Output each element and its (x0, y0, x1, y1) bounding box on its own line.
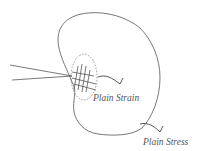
plain-stress-label: Plain Stress (142, 137, 189, 147)
plain-strain-arrow (98, 76, 123, 84)
plain-stress-arrow (140, 123, 163, 132)
plain-strain-label: Plain Strain (92, 93, 139, 103)
crack (10, 65, 72, 80)
body-outline (58, 13, 160, 135)
hatched-region (72, 64, 96, 92)
crack-diagram: Plain Strain Plain Stress (0, 0, 209, 151)
